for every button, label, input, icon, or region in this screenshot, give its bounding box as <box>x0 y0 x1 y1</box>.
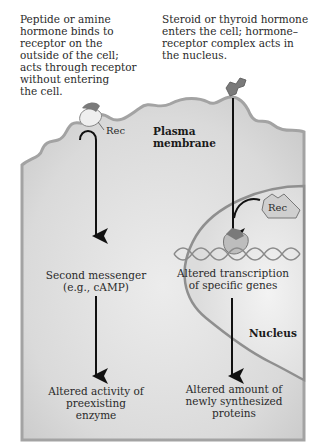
text-line: Altered transcription <box>174 267 292 279</box>
text-line: the cell. <box>20 85 160 97</box>
plasma-membrane-label: Plasma membrane <box>153 125 216 149</box>
enzyme-activity-outcome: Altered activity of preexisting enzyme <box>40 385 152 421</box>
text-line: the nucleus. <box>162 49 312 61</box>
hormone-signaling-diagram: Peptide or amine hormone binds to recept… <box>0 0 312 447</box>
text-line: Altered activity of <box>40 385 152 397</box>
steroid-hormone-icon <box>226 78 246 96</box>
text-line: without entering <box>20 73 160 85</box>
protein-amount-outcome: Altered amount of newly synthesized prot… <box>176 383 292 419</box>
text-line: Plasma <box>153 125 216 137</box>
text-line: Peptide or amine <box>20 13 160 25</box>
nucleus-label: Nucleus <box>249 327 297 339</box>
text-line: enters the cell; hormone– <box>162 25 312 37</box>
text-line: enzyme <box>40 409 152 421</box>
text-line: acts through receptor <box>20 61 160 73</box>
text-line: receptor on the <box>20 37 160 49</box>
second-messenger-label: Second messenger (e.g., cAMP) <box>40 269 152 293</box>
peptide-hormone-description: Peptide or amine hormone binds to recept… <box>20 13 160 97</box>
altered-transcription-label: Altered transcription of specific genes <box>174 267 292 291</box>
text-line: outside of the cell; <box>20 49 160 61</box>
intracellular-receptor-label: Rec <box>268 202 287 213</box>
text-line: newly synthesized <box>176 395 292 407</box>
text-line: receptor complex acts in <box>162 37 312 49</box>
text-line: hormone binds to <box>20 25 160 37</box>
text-line: Steroid or thyroid hormone <box>162 13 312 25</box>
steroid-hormone-description: Steroid or thyroid hormone enters the ce… <box>162 13 312 61</box>
text-line: proteins <box>176 407 292 419</box>
text-line: (e.g., cAMP) <box>40 281 152 293</box>
text-line: membrane <box>153 137 216 149</box>
text-line: Altered amount of <box>176 383 292 395</box>
text-line: Second messenger <box>40 269 152 281</box>
text-line: of specific genes <box>174 279 292 291</box>
membrane-receptor-label: Rec <box>106 125 125 136</box>
text-line: preexisting <box>40 397 152 409</box>
